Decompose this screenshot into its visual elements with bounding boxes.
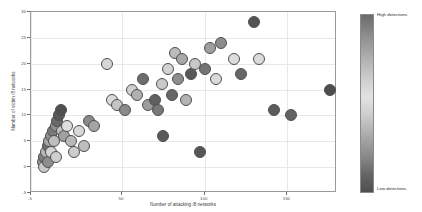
scatter-chart-figure: Number of attacking /8 networks Number o… xyxy=(0,0,422,212)
y-tick xyxy=(27,114,30,115)
y-tick xyxy=(27,89,30,90)
scatter-point xyxy=(88,120,100,132)
scatter-point xyxy=(61,120,73,132)
scatter-point xyxy=(204,42,216,54)
scatter-point xyxy=(210,73,222,85)
y-tick-label: 15 xyxy=(8,86,26,91)
x-tick-label: 100 xyxy=(200,196,207,201)
y-gridline xyxy=(31,167,335,168)
y-tick xyxy=(27,140,30,141)
x-axis-title: Number of attacking /8 networks xyxy=(150,202,216,207)
y-gridline xyxy=(31,90,335,91)
y-tick-label: 10 xyxy=(8,112,26,117)
scatter-point xyxy=(50,151,62,163)
scatter-point xyxy=(228,53,240,65)
scatter-point xyxy=(156,78,168,90)
y-tick-label: 30 xyxy=(8,9,26,14)
y-tick xyxy=(27,63,30,64)
x-gridline xyxy=(287,12,288,191)
scatter-point xyxy=(131,89,143,101)
scatter-point xyxy=(55,104,67,116)
scatter-point xyxy=(235,68,247,80)
x-gridline xyxy=(205,12,206,191)
y-tick xyxy=(27,37,30,38)
y-gridline xyxy=(31,38,335,39)
x-tick-label: -5 xyxy=(28,196,32,201)
y-tick-label: 25 xyxy=(8,34,26,39)
scatter-point xyxy=(248,16,260,28)
y-tick-label: 5 xyxy=(8,138,26,143)
scatter-point xyxy=(180,94,192,106)
colorbar-high-label: High detections xyxy=(377,12,407,17)
scatter-point xyxy=(199,63,211,75)
scatter-point xyxy=(194,146,206,158)
y-tick xyxy=(27,192,30,193)
scatter-point xyxy=(78,140,90,152)
y-tick xyxy=(27,11,30,12)
x-tick-label: 50 xyxy=(119,196,124,201)
scatter-point xyxy=(253,53,265,65)
plot-area xyxy=(30,11,336,192)
x-tick xyxy=(30,192,31,195)
y-tick-label: -5 xyxy=(8,190,26,195)
x-tick xyxy=(121,192,122,195)
scatter-point xyxy=(172,73,184,85)
scatter-point xyxy=(185,68,197,80)
scatter-point xyxy=(215,37,227,49)
scatter-point xyxy=(166,89,178,101)
scatter-point xyxy=(73,125,85,137)
x-tick xyxy=(204,192,205,195)
scatter-point xyxy=(137,73,149,85)
colorbar-low-label: Low detections xyxy=(377,186,406,191)
y-axis-title: Number of victim /8 networks xyxy=(11,71,16,130)
scatter-point xyxy=(176,53,188,65)
x-tick-label: 150 xyxy=(283,196,290,201)
x-gridline xyxy=(31,12,32,191)
y-tick-label: 0 xyxy=(8,164,26,169)
y-tick-label: 20 xyxy=(8,60,26,65)
scatter-point xyxy=(101,58,113,70)
y-tick xyxy=(27,166,30,167)
scatter-point xyxy=(324,84,336,96)
scatter-point xyxy=(162,63,174,75)
scatter-point xyxy=(285,109,297,121)
x-tick xyxy=(286,192,287,195)
detections-colorbar xyxy=(360,14,374,193)
